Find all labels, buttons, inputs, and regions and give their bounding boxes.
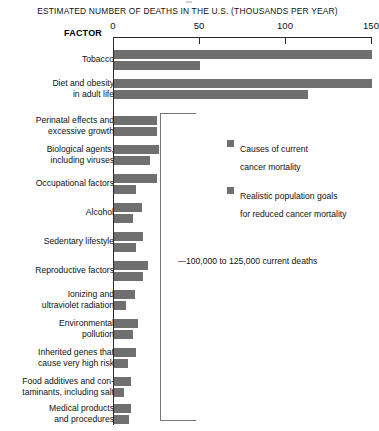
bar-current-mortality	[114, 232, 143, 241]
bar-current-mortality	[114, 203, 142, 212]
axis-tick-label: 150	[363, 20, 379, 31]
chart-axis-title: ESTIMATED NUMBER OF DEATHS IN THE U.S. (…	[0, 6, 375, 16]
bar-reduction-goal	[114, 272, 143, 281]
bar-row: Diet and obesity in adult life	[0, 79, 375, 101]
annotation-label: 100,000 to 125,000 current deaths	[186, 256, 317, 266]
factor-axis-header: FACTOR	[64, 28, 102, 38]
bar-current-mortality	[114, 290, 135, 299]
bar-current-mortality	[114, 319, 138, 328]
bar-current-mortality	[114, 377, 131, 386]
page-artifact-mark	[186, 1, 192, 3]
category-label: Sedentary lifestyle	[44, 236, 114, 247]
legend-item-label: Realistic population goals for reduced c…	[240, 191, 347, 219]
category-label: Diet and obesity in adult life	[52, 78, 114, 99]
axis-top-line	[113, 37, 372, 38]
bar-current-mortality	[114, 404, 131, 413]
axis-tick-label: 50	[194, 20, 205, 31]
category-label: Biological agents, including viruses	[47, 144, 114, 165]
axis-tick-label: 100	[277, 20, 293, 31]
legend-swatch-icon	[227, 187, 234, 194]
bar-reduction-goal	[114, 185, 136, 194]
bar-current-mortality	[114, 348, 136, 357]
bar-current-mortality	[114, 174, 157, 183]
bar-reduction-goal	[114, 415, 129, 424]
category-label: Environmental pollution	[59, 318, 114, 339]
annotation-leader-line	[178, 261, 186, 262]
bar-current-mortality	[114, 145, 159, 154]
bar-current-mortality	[114, 79, 372, 88]
category-label: Reproductive factors	[35, 265, 114, 276]
bar-reduction-goal	[114, 243, 136, 252]
bar-reduction-goal	[114, 127, 157, 136]
legend-item: Causes of current cancer mortality	[227, 138, 375, 174]
bar-current-mortality	[114, 50, 372, 59]
axis-end-cap	[371, 37, 372, 44]
chart-legend: Causes of current cancer mortality Reali…	[227, 138, 375, 232]
axis-tick-label: 0	[110, 20, 115, 31]
bar-current-mortality	[114, 116, 157, 125]
axis-tick	[199, 37, 200, 44]
bar-reduction-goal	[114, 301, 126, 310]
category-label: Medical products and procedures	[49, 403, 114, 424]
legend-item-label: Causes of current cancer mortality	[240, 144, 308, 172]
bar-reduction-goal	[114, 156, 150, 165]
bar-current-mortality	[114, 261, 148, 270]
category-label: Perinatal effects and excessive growth	[36, 115, 114, 136]
bar-reduction-goal	[114, 359, 128, 368]
bar-reduction-goal	[114, 90, 308, 99]
axis-tick	[285, 37, 286, 44]
category-label: Food additives and con- taminants, inclu…	[22, 376, 114, 397]
legend-item: Realistic population goals for reduced c…	[227, 185, 375, 221]
bar-row: Tobacco	[0, 50, 375, 72]
bar-reduction-goal	[114, 61, 200, 70]
category-label: Occupational factors	[36, 178, 114, 189]
category-label: Ionizing and ultraviolet radiation	[42, 289, 114, 310]
category-label: Alcohol	[86, 207, 114, 218]
bar-reduction-goal	[114, 330, 133, 339]
bar-reduction-goal	[114, 214, 133, 223]
bar-reduction-goal	[114, 388, 124, 397]
grouping-bracket	[160, 113, 196, 421]
category-label: Tobacco	[82, 54, 114, 65]
legend-swatch-icon	[227, 140, 234, 147]
category-label: Inherited genes that cause very high ris…	[38, 347, 114, 368]
